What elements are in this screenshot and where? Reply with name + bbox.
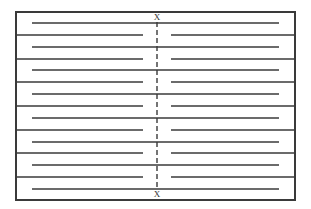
serpentine-diagram: X X — [0, 0, 311, 209]
section-label-top: X — [154, 12, 161, 22]
section-label-bottom: X — [154, 189, 161, 199]
